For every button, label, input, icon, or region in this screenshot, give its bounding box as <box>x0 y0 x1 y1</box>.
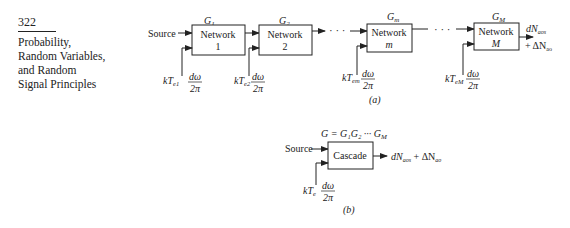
network-1-block: G1 Network 1 kTe1 dω 2π <box>163 15 245 94</box>
svg-text:kTe2: kTe2 <box>234 75 251 87</box>
svg-text:2π: 2π <box>363 80 374 91</box>
svg-text:dω: dω <box>189 71 201 82</box>
svg-text:1: 1 <box>216 41 221 52</box>
svg-text:dω: dω <box>322 180 334 191</box>
svg-text:dω: dω <box>362 68 374 79</box>
svg-text:Network: Network <box>268 29 303 40</box>
svg-text:2π: 2π <box>190 83 201 94</box>
figure-label-a: (a) <box>369 94 381 106</box>
source-label: Source <box>148 28 176 39</box>
svg-text:Gm: Gm <box>387 11 399 24</box>
block-diagram: Source G1 Network 1 kTe1 dω 2π G2 Networ… <box>0 0 570 228</box>
svg-text:· · ·: · · · <box>434 23 451 35</box>
source-label: Source <box>285 143 313 154</box>
svg-text:m: m <box>385 39 392 50</box>
svg-text:dω: dω <box>252 71 264 82</box>
svg-text:2π: 2π <box>323 192 334 203</box>
svg-text:dω: dω <box>467 68 479 79</box>
diagram-a: Source G1 Network 1 kTe1 dω 2π G2 Networ… <box>148 11 552 106</box>
network-m-block: Gm Network m kTem dω 2π <box>342 11 412 91</box>
svg-text:2π: 2π <box>253 83 264 94</box>
svg-text:GM: GM <box>492 11 506 24</box>
svg-text:Network: Network <box>372 27 407 38</box>
svg-text:kTeM: kTeM <box>445 73 464 85</box>
output-label: dNaos <box>526 23 547 35</box>
diagram-b: G = G₁G₂ ··· GM Source Cascade dNaos + Δ… <box>285 128 441 216</box>
svg-text:Network: Network <box>201 29 236 40</box>
svg-text:M: M <box>491 38 501 49</box>
svg-text:Cascade: Cascade <box>333 150 367 161</box>
gain-expression: G = G₁G₂ ··· GM <box>321 128 388 141</box>
svg-text:2: 2 <box>283 41 288 52</box>
svg-text:2π: 2π <box>468 80 479 91</box>
noise-label: kTe <box>303 185 316 197</box>
ellipsis: · · · <box>329 24 346 36</box>
svg-text:+ ΔNao: + ΔNao <box>525 40 552 52</box>
output-label: dNaos + ΔNao <box>391 151 441 163</box>
network-2-block: G2 Network 2 kTe2 dω 2π <box>234 15 312 94</box>
network-M-block: GM Network M kTeM dω 2π <box>445 11 519 91</box>
svg-text:Network: Network <box>479 26 514 37</box>
figure-label-b: (b) <box>343 204 355 216</box>
noise-label: kTe1 <box>163 75 179 87</box>
